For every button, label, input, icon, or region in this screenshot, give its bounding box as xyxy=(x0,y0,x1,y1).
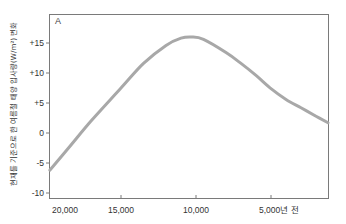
x-tick-label: 10,000 xyxy=(183,205,209,215)
y-axis-label-group: 현재를 기준으로 한 여름철 태양 입사량(W/m²) 변화 xyxy=(9,22,18,187)
y-tick-label: +15 xyxy=(30,38,45,48)
plot-frame xyxy=(50,15,329,199)
x-tick-label: 20,000 xyxy=(52,205,78,215)
y-axis-label: 현재를 기준으로 한 여름철 태양 입사량(W/m²) 변화 xyxy=(9,22,18,187)
y-tick-label: +5 xyxy=(34,98,44,108)
panel-label: A xyxy=(55,16,61,26)
y-tick-label: 0 xyxy=(39,128,44,138)
y-axis-ticks: +15+10+50-5-10 xyxy=(30,38,50,198)
insolation-curve xyxy=(50,37,328,170)
y-tick-label: -5 xyxy=(36,158,44,168)
y-tick-label: +10 xyxy=(30,68,45,78)
solar-insolation-chart: 현재를 기준으로 한 여름철 태양 입사량(W/m²) 변화 A +15+10+… xyxy=(0,0,346,224)
y-tick-label: -10 xyxy=(32,188,45,198)
x-tick-label: 5,000년 전 xyxy=(259,205,299,215)
x-tick-label: 15,000 xyxy=(108,205,134,215)
